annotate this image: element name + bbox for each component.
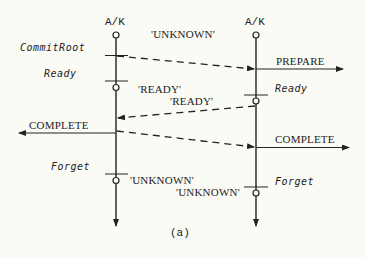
complete-dashed-arrow [117, 131, 254, 147]
left-state-forget: Forget [51, 162, 90, 172]
prepare-dashed-arrow [117, 56, 254, 69]
complete-left-label: COMPLETE [29, 120, 89, 131]
right-ready-node [253, 98, 259, 104]
right-participant-label: A/K [245, 17, 265, 28]
right-lifeline [244, 32, 268, 226]
right-start-node [253, 32, 259, 38]
complete-right-label: COMPLETE [275, 134, 335, 145]
left-participant-label: A/K [105, 17, 125, 28]
right-state-forget: Forget [275, 177, 314, 187]
message-ready-right: 'READY' [170, 96, 213, 107]
left-state-commitroot: CommitRoot [20, 43, 85, 53]
prepare-label: PREPARE [276, 56, 325, 67]
message-unknown-right: 'UNKNOWN' [176, 187, 240, 198]
right-forget-node [253, 190, 259, 196]
message-ready-left: 'READY' [138, 84, 181, 95]
message-unknown-left: 'UNKNOWN' [130, 175, 194, 186]
figure-caption: (a) [170, 228, 190, 239]
left-lifeline [105, 32, 128, 226]
right-state-ready: Ready [275, 84, 308, 94]
message-unknown-top: 'UNKNOWN' [151, 29, 215, 40]
left-forget-node [113, 178, 119, 184]
left-ready-node [113, 85, 119, 91]
left-start-node [113, 32, 119, 38]
ready-dashed-arrow [118, 106, 255, 118]
left-state-ready: Ready [44, 69, 77, 79]
